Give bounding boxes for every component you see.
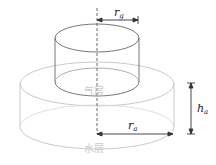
gas-water-cylinder-diagram: rg ra ha 气层 水层 — [0, 0, 216, 165]
r-g-label: rg — [114, 6, 124, 20]
r-a-label: ra — [128, 119, 137, 133]
h-a-label: ha — [197, 102, 208, 116]
h-a-dimension — [187, 83, 195, 134]
gas-layer-label: 气层 — [84, 85, 104, 97]
water-layer-label: 水层 — [84, 143, 104, 154]
